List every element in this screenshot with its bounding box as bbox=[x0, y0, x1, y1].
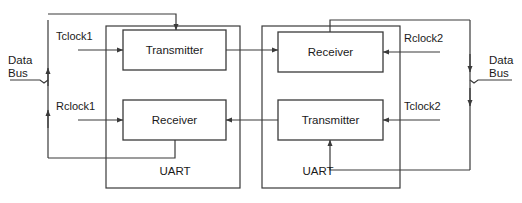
data-bus-left-stub bbox=[10, 80, 48, 83]
uart-right-label: UART bbox=[302, 165, 333, 177]
data-bus-left-label-line2: Bus bbox=[8, 67, 28, 79]
uart-block-diagram: Transmitter Receiver Receiver Transmitte… bbox=[0, 0, 522, 203]
block-transmitter-1-label: Transmitter bbox=[146, 44, 204, 56]
block-receiver-1-label: Receiver bbox=[152, 114, 198, 126]
data-bus-right-label-line2: Bus bbox=[489, 67, 509, 79]
uart-left-label: UART bbox=[159, 165, 190, 177]
label-rclock2: Rclock2 bbox=[404, 32, 443, 44]
block-transmitter-2-label: Transmitter bbox=[302, 114, 360, 126]
block-receiver-2-label: Receiver bbox=[308, 46, 354, 58]
label-tclock2: Tclock2 bbox=[404, 100, 441, 112]
data-bus-left-label-line1: Data bbox=[8, 54, 33, 66]
data-bus-right-stub bbox=[470, 80, 512, 83]
data-bus-right-label-line1: Data bbox=[489, 54, 514, 66]
wire-receiver1-to-bus-left bbox=[48, 140, 175, 158]
uart-diagram-page: Transmitter Receiver Receiver Transmitte… bbox=[0, 0, 522, 203]
label-rclock1: Rclock1 bbox=[56, 100, 95, 112]
label-tclock1: Tclock1 bbox=[56, 30, 93, 42]
wire-bus-left-to-transmitter1 bbox=[48, 14, 176, 30]
